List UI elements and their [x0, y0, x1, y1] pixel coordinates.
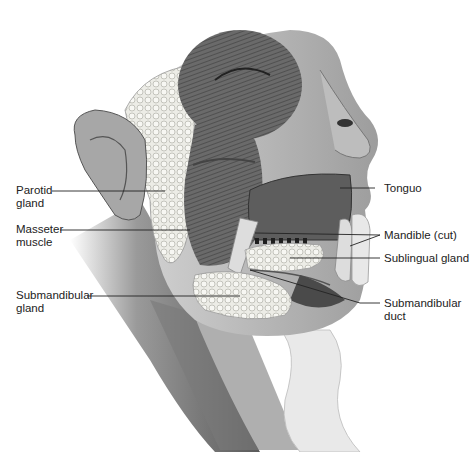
tongue-shape [248, 174, 351, 240]
label-line: Tonguo [384, 182, 422, 195]
label-line: Mandible (cut) [384, 229, 457, 242]
label-masseter-muscle: Masseter muscle [16, 223, 63, 249]
label-line: gland [16, 197, 52, 210]
anatomy-illustration [0, 0, 473, 452]
label-line: Sublingual gland [384, 252, 469, 265]
label-line: Submandibular [384, 297, 461, 310]
label-line: Submandibular [16, 289, 93, 302]
eye-muscle [178, 30, 302, 140]
ear-shape [74, 110, 147, 220]
label-tongue: Tonguo [384, 182, 422, 195]
label-mandible-cut: Mandible (cut) [384, 229, 457, 242]
label-parotid-gland: Parotid gland [16, 184, 52, 210]
label-line: gland [16, 302, 93, 315]
sublingual-gland-shape [245, 243, 323, 271]
label-line: muscle [16, 236, 63, 249]
label-line: Masseter [16, 223, 63, 236]
label-submandibular-gland: Submandibular gland [16, 289, 93, 315]
label-line: Parotid [16, 184, 52, 197]
label-submandibular-duct: Submandibular duct [384, 297, 461, 323]
label-sublingual-gland: Sublingual gland [384, 252, 469, 265]
label-line: duct [384, 310, 461, 323]
